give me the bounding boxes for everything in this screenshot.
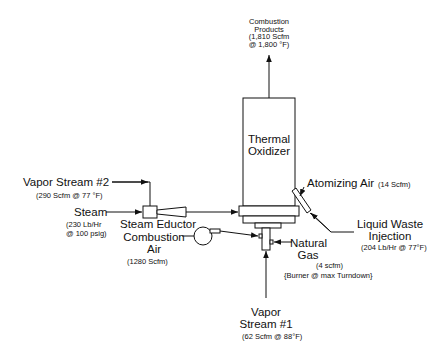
vapor-stream-2-title: Vapor Stream #2 bbox=[23, 177, 109, 189]
liquid-waste-line bbox=[310, 213, 354, 232]
vapor-stream-1-title-1: Vapor bbox=[232, 307, 300, 319]
combustion-products-label: Combustion Products (1,810 Scfm @ 1,800 … bbox=[244, 18, 294, 48]
atomizing-air-line bbox=[300, 187, 304, 196]
liquid-waste-label: Liquid Waste Injection bbox=[352, 219, 428, 242]
natural-gas-title-2: Gas bbox=[290, 250, 326, 262]
steam-eductor-diffuser bbox=[157, 207, 186, 217]
blower-outlet bbox=[210, 229, 220, 233]
natural-gas-flow: (4 scfm) bbox=[316, 262, 343, 270]
natural-gas-note: {Burner @ max Turndown} bbox=[284, 272, 373, 280]
natural-gas-port bbox=[270, 240, 273, 244]
combustion-air-blower bbox=[194, 227, 212, 245]
vapor-stream-2-detail: (290 Scfm @ 77 °F) bbox=[36, 192, 102, 200]
steam-eductor-body bbox=[143, 206, 157, 218]
vapor-stream-1-title-2: Stream #1 bbox=[232, 319, 300, 331]
thermal-oxidizer-label: Thermal Oxidizer bbox=[243, 134, 295, 157]
combustion-air-label: Combustion Air bbox=[120, 232, 188, 255]
liquid-waste-title-1: Liquid Waste bbox=[352, 219, 428, 231]
atomizing-air-detail: (14 Scfm) bbox=[378, 181, 411, 189]
liquid-waste-title-2: Injection bbox=[352, 231, 428, 243]
combustion-air-title-1: Combustion bbox=[120, 232, 188, 244]
steam-detail-1: (230 Lb/Hr bbox=[66, 221, 101, 229]
steam-eductor-title: Steam Eductor bbox=[120, 219, 196, 231]
burner-throat bbox=[243, 216, 295, 223]
burner-flange bbox=[239, 206, 299, 216]
vapor-stream-1-label: Vapor Stream #1 bbox=[232, 307, 300, 330]
atomizing-air-title: Atomizing Air bbox=[307, 178, 374, 190]
combustion-products-temp: @ 1,800 °F) bbox=[244, 41, 294, 49]
combustion-air-detail: (1280 Scfm) bbox=[127, 258, 168, 266]
natural-gas-title-1: Natural bbox=[290, 238, 326, 250]
thermal-oxidizer-line-1: Thermal bbox=[243, 134, 295, 146]
steam-title: Steam bbox=[74, 207, 107, 219]
combustion-air-port bbox=[259, 234, 262, 238]
steam-detail-2: @ 100 psig) bbox=[66, 230, 107, 238]
combustion-air-title-2: Air bbox=[120, 244, 188, 256]
vapor-stream-2-line bbox=[112, 182, 150, 206]
thermal-oxidizer-line-2: Oxidizer bbox=[243, 146, 295, 158]
natural-gas-label: Natural Gas bbox=[290, 238, 326, 261]
burner-housing bbox=[255, 223, 281, 228]
vapor-stream-1-detail: (62 Scfm @ 88°F) bbox=[242, 333, 302, 341]
burner-nozzle bbox=[262, 228, 270, 250]
liquid-waste-detail: (204 Lb/Hr @ 77°F) bbox=[361, 244, 427, 252]
combustion-air-to-burner bbox=[220, 231, 258, 236]
